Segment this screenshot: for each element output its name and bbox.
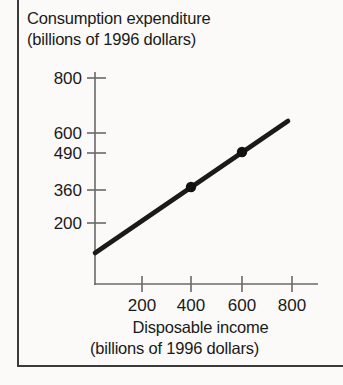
x-tick-label-600: 600 <box>228 296 256 315</box>
y-axis-ticks <box>87 78 106 223</box>
x-tick-label-400: 400 <box>177 296 205 315</box>
x-axis-title: Disposable income (billions of 1996 doll… <box>0 317 343 359</box>
y-tick-label-800: 800 <box>54 69 82 88</box>
y-tick-label-200: 200 <box>54 214 82 233</box>
x-axis-title-line1: Disposable income <box>0 317 343 338</box>
y-tick-label-360: 360 <box>54 181 82 200</box>
data-point-marker-400-360 <box>186 182 196 192</box>
data-point-marker-600-490 <box>237 147 247 157</box>
y-tick-label-490: 490 <box>54 144 82 163</box>
x-tick-label-800: 800 <box>278 296 306 315</box>
x-axis-title-line2: (billions of 1996 dollars) <box>0 338 343 359</box>
y-tick-label-600: 600 <box>54 124 82 143</box>
figure-frame: Consumption expenditure (billions of 199… <box>0 0 343 385</box>
x-tick-label-200: 200 <box>128 296 156 315</box>
